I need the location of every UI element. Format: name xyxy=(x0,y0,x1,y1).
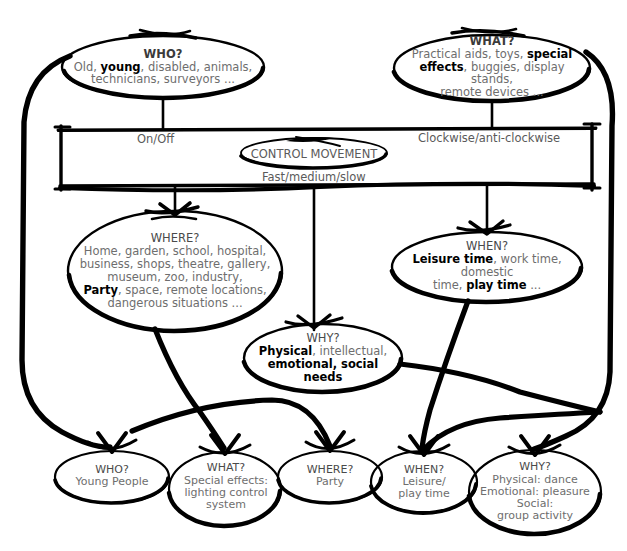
outcome-node-where[interactable]: WHERE? Party xyxy=(280,459,380,493)
outcome-node-when[interactable]: WHEN? Leisure/ play time xyxy=(374,458,474,506)
control-box-label-clockwise: Clockwise/anti-clockwise xyxy=(418,131,560,145)
outcome-node-what[interactable]: WHAT? Special effects: lighting control … xyxy=(171,456,281,518)
outcome-when-heading: WHEN? xyxy=(380,464,468,476)
node-where-line4: Party, space, remote locations, xyxy=(74,284,276,297)
edge-where-to-outcome-what xyxy=(155,329,224,448)
node-where[interactable]: WHERE? Home, garden, school, hospital, b… xyxy=(68,233,282,309)
arrowhead-outcome-who xyxy=(88,433,136,452)
control-box-label-speed: Fast/medium/slow xyxy=(262,170,366,184)
outcome-who-line-0: Young People xyxy=(63,476,161,488)
node-why-line2: emotional, social needs xyxy=(252,358,394,384)
diagram-canvas: WHO? Old, young, disabled, animals, tech… xyxy=(0,0,627,551)
edge-cross-to-outcome-where xyxy=(132,400,330,446)
node-when-line2: time, play time ... xyxy=(396,279,578,292)
node-when[interactable]: WHEN? Leisure time, work time, domestic … xyxy=(390,241,584,291)
outcome-what-line-2: system xyxy=(177,499,275,511)
node-why[interactable]: WHY? Physical, intellectual, emotional, … xyxy=(246,334,400,382)
node-who[interactable]: WHO? Old, young, disabled, animals, tech… xyxy=(62,38,264,96)
node-control-movement[interactable]: CONTROL MOVEMENT xyxy=(241,144,387,164)
node-who-line2: technicians, surveyors ... xyxy=(68,73,258,86)
outcome-why-line-3: group activity xyxy=(477,510,593,522)
node-where-line5: dangerous situations ... xyxy=(74,297,276,310)
node-what[interactable]: WHAT? Practical aids, toys, special effe… xyxy=(394,34,590,100)
control-box-label-onoff: On/Off xyxy=(137,132,174,146)
outcome-node-why[interactable]: WHY? Physical: dance Emotional: pleasure… xyxy=(471,455,599,529)
outcome-where-line-0: Party xyxy=(286,476,374,488)
outcome-why-heading: WHY? xyxy=(477,461,593,473)
node-what-line3: remote devices ... xyxy=(400,86,584,99)
node-when-line1: Leisure time, work time, domestic xyxy=(396,253,578,279)
outcome-what-heading: WHAT? xyxy=(177,462,275,474)
outcome-why-line-0: Physical: dance xyxy=(477,474,593,486)
node-what-line2: effects, buggies, display stands, xyxy=(400,61,584,87)
outcome-when-line-1: play time xyxy=(380,488,468,500)
outcome-node-who[interactable]: WHO? Young People xyxy=(57,459,167,493)
control-movement-label: CONTROL MOVEMENT xyxy=(241,148,387,161)
arrowhead-outcome-what xyxy=(200,435,250,454)
